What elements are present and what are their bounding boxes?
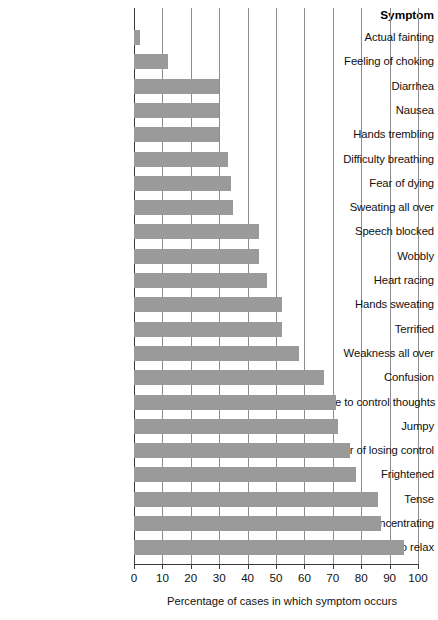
- bar: [134, 395, 336, 410]
- category-label: Actual fainting: [306, 31, 434, 44]
- bar: [134, 516, 381, 531]
- category-label: Confusion: [306, 371, 434, 384]
- category-label: Nausea: [306, 104, 434, 117]
- bar: [134, 224, 259, 239]
- bar: [134, 370, 324, 385]
- x-axis-tick: [162, 564, 163, 569]
- category-label: Feeling of choking: [306, 55, 434, 68]
- category-label: Fear of dying: [306, 177, 434, 190]
- bar: [134, 54, 168, 69]
- x-axis-tick: [361, 564, 362, 569]
- category-label: Wobbly: [306, 250, 434, 263]
- bar: [134, 467, 356, 482]
- category-label: Hands sweating: [306, 298, 434, 311]
- x-axis-tick: [276, 564, 277, 569]
- bar: [134, 346, 299, 361]
- bar: [134, 443, 350, 458]
- x-axis-tick: [390, 564, 391, 569]
- category-label: Difficulty breathing: [306, 153, 434, 166]
- x-axis-title-text: Percentage of cases in which symptom occ…: [37, 595, 397, 607]
- x-axis-title: Percentage of cases in which symptom occ…: [0, 595, 434, 607]
- bar: [134, 322, 282, 337]
- x-axis-tick: [418, 564, 419, 569]
- category-label: Hands trembling: [306, 128, 434, 141]
- x-axis-tick: [191, 564, 192, 569]
- bar: [134, 419, 338, 434]
- x-axis-tick-label: 100: [398, 571, 438, 584]
- bar: [134, 176, 231, 191]
- bar: [134, 79, 219, 94]
- category-label: Sweating all over: [306, 201, 434, 214]
- category-label: Terrified: [306, 323, 434, 336]
- bar: [134, 200, 233, 215]
- bar: [134, 273, 267, 288]
- category-label: Diarrhea: [306, 80, 434, 93]
- bar: [134, 152, 228, 167]
- bar: [134, 297, 282, 312]
- x-axis-tick: [304, 564, 305, 569]
- bar: [134, 103, 219, 118]
- bar: [134, 540, 404, 555]
- x-axis-tick: [219, 564, 220, 569]
- bar: [134, 492, 378, 507]
- category-label: Heart racing: [306, 274, 434, 287]
- bar: [134, 30, 140, 45]
- category-label: Weakness all over: [306, 347, 434, 360]
- bar: [134, 127, 219, 142]
- x-axis-tick: [134, 564, 135, 569]
- category-label: Speech blocked: [306, 225, 434, 238]
- x-axis-tick: [248, 564, 249, 569]
- x-axis-tick: [333, 564, 334, 569]
- bar: [134, 249, 259, 264]
